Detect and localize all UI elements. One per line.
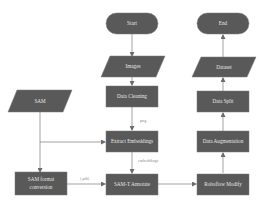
node-samt-annotate-label: SAM-T Annotate (114, 181, 151, 187)
node-data-split-label: Data Split (213, 98, 234, 104)
node-data-augmentation[interactable]: Data Augmentation (197, 131, 249, 152)
node-sam-label: SAM (34, 98, 46, 104)
edge-label-png: png (140, 118, 147, 123)
node-roboflow-modify-label: Roboflow Modify (204, 181, 242, 187)
flowchart-canvas: png embeddings (.pth) SAM SAM format con… (0, 0, 260, 206)
node-dataset[interactable]: Dataset (192, 57, 256, 77)
node-sam-format-label-line2: conversion (30, 184, 53, 190)
node-end-label: End (219, 20, 228, 26)
node-extract-embeddings-label: Extract Embeddings (111, 138, 153, 144)
node-end[interactable]: End (197, 13, 249, 34)
node-start-label: Start (127, 20, 137, 26)
node-data-cleaning-label: Data Cleaning (117, 93, 147, 99)
edge-label-embeddings: embeddings (138, 158, 159, 163)
node-sam[interactable]: SAM (8, 90, 72, 112)
node-data-split[interactable]: Data Split (197, 91, 249, 112)
node-images[interactable]: Images (101, 56, 165, 77)
node-extract-embeddings[interactable]: Extract Embeddings (106, 131, 158, 152)
node-start[interactable]: Start (106, 13, 158, 34)
node-data-cleaning[interactable]: Data Cleaning (106, 86, 158, 107)
node-dataset-label: Dataset (216, 64, 232, 70)
node-sam-format-label-line1: SAM format (28, 176, 55, 182)
node-samt-annotate[interactable]: SAM-T Annotate (106, 174, 158, 195)
node-sam-format-conversion[interactable]: SAM format conversion (15, 172, 67, 195)
node-roboflow-modify[interactable]: Roboflow Modify (197, 174, 249, 195)
node-images-label: Images (126, 63, 141, 69)
node-data-augmentation-label: Data Augmentation (203, 138, 244, 144)
edge-label-pth: (.pth) (80, 176, 90, 181)
